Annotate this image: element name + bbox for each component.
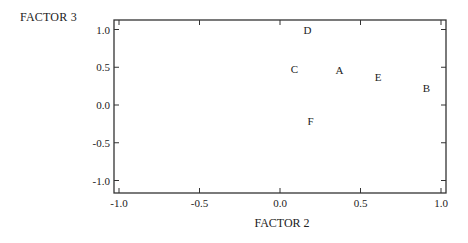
- scatter-plot: -1.0-0.50.00.51.01.00.50.0-0.5-1.0DCAEBF: [0, 0, 468, 243]
- data-point-b: B: [423, 82, 430, 94]
- y-tick-label: 1.0: [96, 24, 110, 36]
- plot-frame: [114, 20, 446, 193]
- y-tick-label: -1.0: [93, 175, 111, 187]
- data-point-a: A: [336, 64, 344, 76]
- x-tick-label: 0.5: [354, 197, 368, 209]
- data-point-c: C: [291, 63, 298, 75]
- x-tick-label: 0.0: [273, 197, 287, 209]
- x-tick-label: -0.5: [191, 197, 209, 209]
- x-tick-label: -1.0: [110, 197, 128, 209]
- y-tick-label: 0.0: [96, 99, 110, 111]
- data-point-f: F: [308, 115, 314, 127]
- data-point-d: D: [303, 24, 311, 36]
- y-tick-label: 0.5: [96, 61, 110, 73]
- data-point-e: E: [375, 71, 382, 83]
- y-tick-label: -0.5: [93, 137, 111, 149]
- x-tick-label: 1.0: [434, 197, 448, 209]
